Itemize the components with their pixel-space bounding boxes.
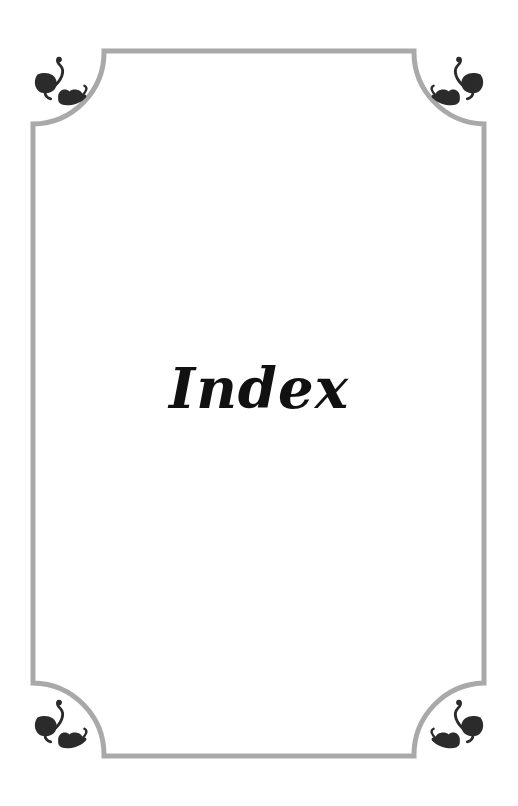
index-title-page: Index	[0, 0, 518, 806]
paisley-flourish-icon	[428, 52, 488, 112]
paisley-flourish-icon	[30, 695, 90, 755]
page-title: Index	[0, 355, 518, 421]
paisley-flourish-icon	[428, 695, 488, 755]
paisley-flourish-icon	[30, 52, 90, 112]
